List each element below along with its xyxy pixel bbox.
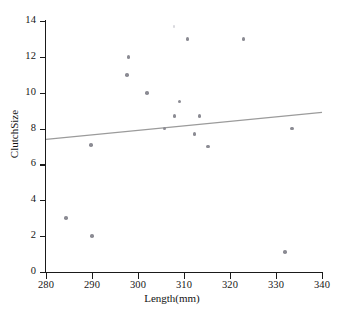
x-axis-title: Length(mm) <box>0 292 344 304</box>
x-tick-330 <box>276 273 277 279</box>
data-point <box>125 73 129 77</box>
data-point <box>173 114 177 118</box>
data-point <box>242 37 246 41</box>
x-tick-300 <box>138 273 139 279</box>
x-tick-310 <box>184 273 185 279</box>
data-point <box>173 25 176 28</box>
scatter-plot-figure: 02468101214 280290300310320330340 Length… <box>0 0 344 325</box>
x-tick-320 <box>230 273 231 279</box>
x-tick-340 <box>322 273 323 279</box>
data-point <box>127 55 131 59</box>
x-tick-label-310: 310 <box>164 279 204 290</box>
data-point <box>283 250 287 254</box>
data-point <box>145 91 149 95</box>
y-tick-label-2: 2 <box>10 229 36 240</box>
data-point <box>89 143 93 147</box>
plot-area <box>46 21 322 272</box>
data-point <box>193 132 197 136</box>
x-tick-280 <box>46 273 47 279</box>
y-tick-label-0: 0 <box>10 265 36 276</box>
x-tick-290 <box>92 273 93 279</box>
y-tick-label-14: 14 <box>10 14 36 25</box>
y-axis-title: ClutchSize <box>8 84 20 184</box>
x-tick-label-340: 340 <box>302 279 342 290</box>
regression-line <box>46 21 322 272</box>
x-tick-label-320: 320 <box>210 279 250 290</box>
x-tick-label-280: 280 <box>26 279 66 290</box>
x-tick-label-290: 290 <box>72 279 112 290</box>
y-tick-label-12: 12 <box>10 50 36 61</box>
data-point <box>64 216 68 220</box>
data-point <box>90 234 94 238</box>
x-tick-label-330: 330 <box>256 279 296 290</box>
y-tick-label-4: 4 <box>10 193 36 204</box>
data-point <box>206 145 210 149</box>
x-tick-label-300: 300 <box>118 279 158 290</box>
